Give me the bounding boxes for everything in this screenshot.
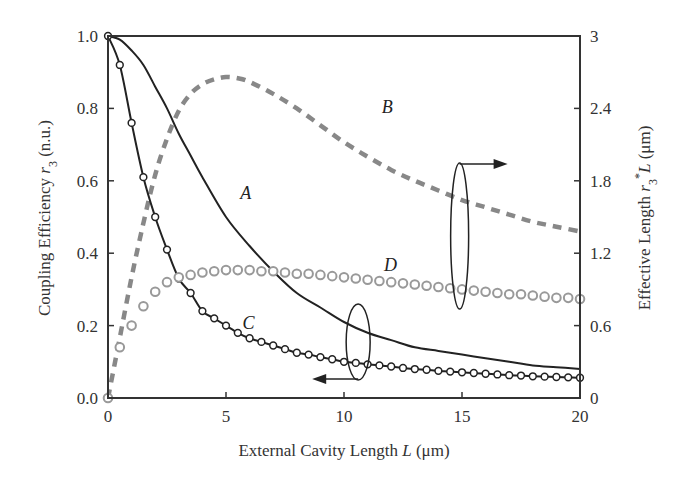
data-point [447,368,454,375]
data-point [434,283,443,292]
y2-tick-label: 2.4 [590,99,612,118]
data-point [175,273,184,282]
data-point [411,366,418,373]
data-point [222,266,231,275]
data-point [211,315,218,322]
x-tick-label: 5 [222,407,231,426]
arrow-left-icon [312,374,326,384]
data-point [388,363,395,370]
data-point [140,174,147,181]
data-point [399,279,408,288]
data-point [305,351,312,358]
data-point [352,274,361,283]
data-point [163,278,172,287]
x-tick-label: 0 [104,407,113,426]
data-point [506,372,513,379]
data-point [564,294,573,303]
data-point [270,342,277,349]
data-point [411,280,420,289]
data-point [493,289,502,298]
data-point [317,354,324,361]
data-point [376,362,383,369]
chart: 051015200.00.20.40.60.81.000.61.21.82.43… [0,0,681,478]
data-point [352,359,359,366]
data-point [375,277,384,286]
y2-tick-label: 3 [590,27,599,46]
y2-tick-label: 0.6 [590,317,611,336]
data-point [127,321,136,330]
x-axis-title: External Cavity Length L (μm) [238,441,449,460]
series-B [108,77,580,398]
data-point [293,349,300,356]
y-tick-label: 0.4 [77,244,99,263]
data-point [116,343,125,352]
data-point [234,266,243,275]
y2-tick-label: 1.2 [590,244,611,263]
curve-label-C: C [243,313,256,333]
data-point [269,267,278,276]
data-point [293,269,302,278]
data-point [553,374,560,381]
data-point [422,281,431,290]
data-point [164,246,171,253]
series-A [108,36,580,369]
data-point [529,373,536,380]
y2-axis-title: Effective Length r3*L (μm) [632,126,660,311]
data-point [328,272,337,281]
y2-tick-label: 1.8 [590,172,611,191]
data-point [400,365,407,372]
data-point [258,338,265,345]
data-point [423,366,430,373]
data-point [541,373,548,380]
data-point [187,290,194,297]
data-point [565,374,572,381]
y-tick-label: 0.2 [77,317,98,336]
data-point [329,356,336,363]
y2-tick-label: 0 [590,389,599,408]
data-point [199,308,206,315]
data-point [282,346,289,353]
data-point [116,62,123,69]
data-point [152,214,159,221]
data-point [517,290,526,299]
data-point [304,269,313,278]
data-point [128,119,135,126]
data-point [470,286,479,295]
data-point [518,372,525,379]
arrow-right-icon [494,159,508,169]
data-point [198,268,207,277]
data-point [245,266,254,275]
data-point [481,288,490,297]
data-point [316,271,325,280]
data-point [505,290,514,299]
data-point [281,268,290,277]
y-tick-label: 0.6 [77,172,98,191]
data-point [540,292,549,301]
curve-label-D: D [383,255,397,275]
x-tick-label: 10 [336,407,353,426]
data-point [234,329,241,336]
data-point [246,335,253,342]
y-tick-label: 0.8 [77,99,98,118]
data-point [186,271,195,280]
data-point [494,371,501,378]
y-tick-label: 0.0 [77,389,98,408]
curve-label-B: B [382,97,393,117]
data-point [210,267,219,276]
data-point [340,273,349,282]
plot-curves [104,33,585,403]
data-point [529,291,538,300]
data-point [341,358,348,365]
axes [108,36,580,398]
data-point [151,288,160,297]
data-point [482,370,489,377]
series-D [104,266,585,403]
x-tick-label: 20 [572,407,589,426]
data-point [223,322,230,329]
ellipse-left-group [346,304,370,380]
y-axis-title: Coupling Efficiency r3 (n.u.) [35,120,60,316]
annotations: ABCD [239,97,507,384]
data-point [139,302,148,311]
x-tick-label: 15 [454,407,471,426]
data-point [387,278,396,287]
